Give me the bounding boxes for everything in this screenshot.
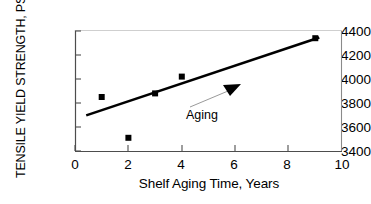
data-point-marker [312,35,318,41]
aging-arrowhead-icon [223,84,241,96]
chart-figure: TENSILE YIELD STRENGTH, PSI 4400 4200 40… [0,0,371,204]
trend-line [86,38,319,116]
plot-area [0,0,371,204]
data-point-marker [179,74,185,80]
data-point-marker [99,94,105,100]
aging-leader-line [190,91,228,107]
data-point-marker [125,135,131,141]
data-point-marker [152,90,158,96]
